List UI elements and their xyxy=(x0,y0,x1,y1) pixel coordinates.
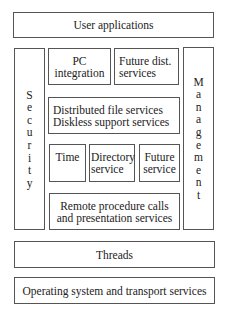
pc-integration-line-1: PC xyxy=(55,55,105,67)
management-letter: a xyxy=(196,113,201,126)
threads-box: Threads xyxy=(14,241,215,268)
management-letter: e xyxy=(196,164,201,177)
security-letter: y xyxy=(27,177,33,190)
os-transport-box: Operating system and transport services xyxy=(14,277,215,304)
distributed-file-line-1: Distributed file services xyxy=(53,104,169,116)
management-letter: n xyxy=(196,101,202,114)
pc-integration-box: PC integration xyxy=(48,48,111,85)
security-box: Security xyxy=(14,48,45,230)
management-letter: n xyxy=(196,176,202,189)
management-letter: a xyxy=(196,88,201,101)
future-service-line-2: service xyxy=(143,163,176,175)
security-letter: i xyxy=(28,152,31,165)
future-dist-services-box: Future dist. services xyxy=(114,48,179,85)
directory-line-1: Directory xyxy=(91,151,135,163)
user-applications-label: User applications xyxy=(73,19,153,31)
management-letter: M xyxy=(193,76,203,89)
management-box: Management xyxy=(183,47,214,230)
distributed-file-services-box: Distributed file services Diskless suppo… xyxy=(48,97,180,134)
security-letter: c xyxy=(27,114,32,127)
threads-label: Threads xyxy=(96,249,133,261)
directory-line-2: service xyxy=(91,163,135,175)
future-service-box: Future service xyxy=(139,144,180,182)
management-letter: m xyxy=(194,151,203,164)
future-service-line-1: Future xyxy=(143,151,176,163)
management-letter: e xyxy=(196,139,201,152)
time-box: Time xyxy=(49,144,86,182)
future-dist-line-2: services xyxy=(119,67,171,79)
security-letter: t xyxy=(28,164,31,177)
pc-integration-line-2: integration xyxy=(55,67,105,79)
security-letter: r xyxy=(28,139,32,152)
management-letter: t xyxy=(197,189,200,202)
security-letter: e xyxy=(27,101,32,114)
time-label: Time xyxy=(56,151,80,163)
os-transport-label: Operating system and transport services xyxy=(23,285,207,297)
distributed-file-line-2: Diskless support services xyxy=(53,116,169,128)
security-letter: S xyxy=(26,89,32,102)
rpc-line-2: and presentation services xyxy=(57,212,173,224)
rpc-presentation-box: Remote procedure calls and presentation … xyxy=(49,193,180,230)
user-applications-box: User applications xyxy=(13,12,214,38)
rpc-line-1: Remote procedure calls xyxy=(57,200,173,212)
future-dist-line-1: Future dist. xyxy=(119,55,171,67)
management-letter: g xyxy=(196,126,202,139)
security-letter: u xyxy=(27,126,33,139)
directory-service-box: Directory service xyxy=(89,144,135,182)
